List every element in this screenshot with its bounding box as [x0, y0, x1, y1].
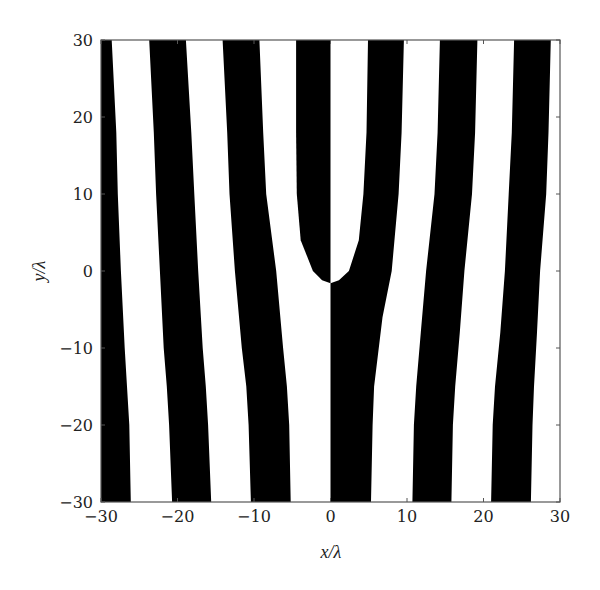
x-tick-label: 30 — [550, 507, 570, 526]
fork-hologram-chart: −30−20−100102030 −30−20−100102030 x/λ y/… — [0, 0, 600, 590]
x-tick-label: −20 — [161, 507, 195, 526]
x-tick-label: −10 — [237, 507, 271, 526]
plot-area — [101, 40, 560, 502]
y-tick-label: 0 — [83, 262, 93, 281]
x-tick-labels: −30−20−100102030 — [84, 507, 570, 526]
x-axis-label: x/λ — [320, 542, 342, 562]
y-tick-label: −20 — [59, 416, 93, 435]
y-tick-label: −10 — [59, 339, 93, 358]
y-tick-label: 10 — [73, 185, 93, 204]
x-tick-label: 10 — [397, 507, 417, 526]
y-axis-label: y/λ — [29, 260, 49, 283]
y-tick-label: 30 — [73, 31, 93, 50]
y-tick-labels: −30−20−100102030 — [59, 31, 93, 512]
y-tick-label: 20 — [73, 108, 93, 127]
x-tick-label: 20 — [473, 507, 493, 526]
x-tick-label: 0 — [325, 507, 335, 526]
y-tick-label: −30 — [59, 493, 93, 512]
